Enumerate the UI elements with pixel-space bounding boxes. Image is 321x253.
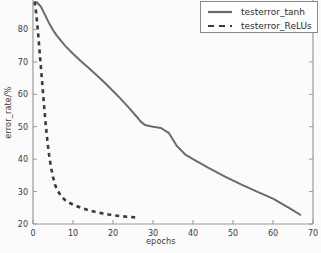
tick-labels: 0102030405060702030405060708090 xyxy=(18,0,318,238)
svg-text:80: 80 xyxy=(18,25,28,34)
svg-text:40: 40 xyxy=(18,155,28,164)
svg-text:20: 20 xyxy=(108,229,118,238)
series-line-1 xyxy=(35,2,137,218)
svg-text:70: 70 xyxy=(18,58,28,67)
svg-text:50: 50 xyxy=(18,123,28,132)
svg-text:30: 30 xyxy=(18,188,28,197)
svg-text:90: 90 xyxy=(18,0,28,2)
svg-text:50: 50 xyxy=(228,229,238,238)
svg-text:10: 10 xyxy=(68,229,78,238)
series-line-0 xyxy=(35,2,301,215)
legend: testerror_tanh testerror_ReLUs xyxy=(200,1,318,33)
chart-plot-area: 0102030405060702030405060708090 xyxy=(0,0,321,253)
axes xyxy=(33,0,313,224)
svg-text:20: 20 xyxy=(18,220,28,229)
legend-line-solid-icon xyxy=(207,7,233,17)
tick-marks xyxy=(33,0,313,224)
svg-text:70: 70 xyxy=(308,229,318,238)
svg-text:60: 60 xyxy=(18,90,28,99)
legend-line-dashed-icon xyxy=(207,21,233,31)
svg-text:60: 60 xyxy=(268,229,278,238)
legend-entry-tanh: testerror_tanh xyxy=(207,5,305,18)
y-axis-label: error_rate/% xyxy=(4,81,13,145)
legend-label-tanh: testerror_tanh xyxy=(241,7,305,17)
chart-figure: 0102030405060702030405060708090 epochs e… xyxy=(0,0,321,253)
legend-label-relus: testerror_ReLUs xyxy=(241,21,312,31)
svg-text:0: 0 xyxy=(30,229,35,238)
data-series xyxy=(35,2,301,218)
svg-text:40: 40 xyxy=(188,229,198,238)
legend-entry-relus: testerror_ReLUs xyxy=(207,19,312,32)
x-axis-label: epochs xyxy=(146,237,176,246)
